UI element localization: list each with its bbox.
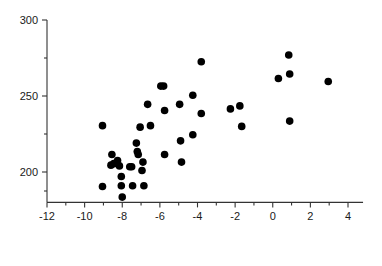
scatter-plot-figure: 200250300 -12-10-8-6-4-2024 bbox=[0, 0, 382, 266]
scatter-point bbox=[136, 123, 144, 131]
scatter-point bbox=[140, 182, 148, 190]
scatter-point bbox=[189, 91, 197, 99]
scatter-point bbox=[238, 123, 246, 131]
scatter-point bbox=[99, 183, 107, 191]
x-axis: -12-10-8-6-4-2024 bbox=[39, 202, 363, 222]
scatter-point bbox=[286, 70, 294, 78]
scatter-point bbox=[118, 193, 126, 201]
x-axis-tick-label: 0 bbox=[270, 210, 276, 222]
scatter-point bbox=[128, 163, 136, 171]
scatter-point bbox=[227, 105, 235, 113]
scatter-point bbox=[118, 173, 126, 181]
x-axis-tick-label: -10 bbox=[77, 210, 93, 222]
x-axis-tick-label: -6 bbox=[155, 210, 165, 222]
y-axis-tick-label: 200 bbox=[20, 166, 38, 178]
y-axis-tick-label: 300 bbox=[20, 14, 38, 26]
scatter-point bbox=[161, 107, 169, 115]
scatter-point bbox=[176, 101, 184, 109]
y-axis-tick-label: 250 bbox=[20, 90, 38, 102]
scatter-point bbox=[134, 151, 142, 159]
scatter-point bbox=[161, 151, 169, 159]
scatter-point bbox=[147, 122, 155, 130]
scatter-point bbox=[133, 139, 141, 147]
scatter-point bbox=[129, 182, 137, 190]
x-axis-tick-label: -8 bbox=[117, 210, 127, 222]
x-axis-tick-label: -4 bbox=[193, 210, 203, 222]
scatter-point bbox=[236, 102, 244, 110]
scatter-point bbox=[197, 110, 205, 118]
scatter-point bbox=[138, 167, 146, 175]
data-points-layer bbox=[99, 51, 332, 201]
scatter-point bbox=[118, 182, 126, 190]
scatter-point bbox=[324, 78, 332, 86]
scatter-point bbox=[160, 82, 168, 90]
x-axis-tick-label: 4 bbox=[345, 210, 351, 222]
x-axis-tick-label: -12 bbox=[39, 210, 55, 222]
scatter-point bbox=[285, 51, 293, 59]
scatter-point bbox=[286, 117, 294, 125]
x-axis-tick-label: 2 bbox=[307, 210, 313, 222]
scatter-point bbox=[177, 137, 185, 145]
scatter-point bbox=[139, 158, 147, 166]
scatter-point bbox=[108, 151, 116, 159]
chart-canvas: 200250300 -12-10-8-6-4-2024 bbox=[0, 0, 382, 266]
scatter-point bbox=[189, 131, 197, 139]
scatter-point bbox=[275, 75, 283, 83]
scatter-point bbox=[144, 101, 152, 109]
x-axis-tick-label: -2 bbox=[230, 210, 240, 222]
scatter-point bbox=[197, 58, 205, 66]
scatter-point bbox=[99, 122, 107, 130]
scatter-point bbox=[178, 158, 186, 166]
scatter-point bbox=[116, 162, 124, 170]
y-axis: 200250300 bbox=[20, 14, 47, 202]
